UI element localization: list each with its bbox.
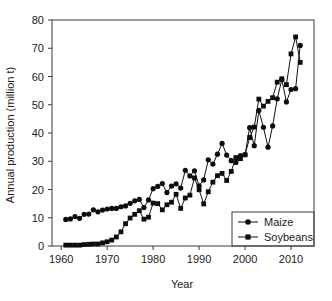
data-point-marker <box>160 181 165 186</box>
legend-label: Soybeans <box>264 231 313 243</box>
x-tick-label: 1960 <box>49 253 73 265</box>
data-point-marker <box>160 207 165 212</box>
data-point-marker <box>137 197 142 202</box>
data-point-marker <box>63 217 68 222</box>
data-point-marker <box>151 201 156 206</box>
data-point-marker <box>238 156 243 161</box>
data-point-marker <box>132 198 137 203</box>
data-point-marker <box>91 242 96 247</box>
legend-label: Maize <box>264 216 293 228</box>
data-point-marker <box>229 158 234 163</box>
legend-item-maize[interactable]: Maize <box>238 216 293 228</box>
data-point-marker <box>174 192 179 197</box>
data-point-marker <box>77 243 82 248</box>
x-axis-title: Year <box>171 278 194 290</box>
data-point-marker <box>96 242 101 247</box>
data-point-marker <box>146 215 151 220</box>
data-point-marker <box>219 141 224 146</box>
data-point-marker <box>73 243 78 248</box>
data-point-marker <box>187 193 192 198</box>
y-tick-label: 40 <box>32 127 44 139</box>
data-point-marker <box>270 123 275 128</box>
data-point-marker <box>68 243 73 248</box>
series-maize <box>63 43 303 222</box>
data-point-marker <box>215 152 220 157</box>
data-point-marker <box>146 197 151 202</box>
series-line-soybeans <box>66 37 300 245</box>
data-point-marker <box>275 96 280 101</box>
legend-item-soybeans[interactable]: Soybeans <box>238 231 313 243</box>
data-point-marker <box>165 202 170 207</box>
data-point-marker <box>206 157 211 162</box>
data-point-marker <box>183 168 188 173</box>
data-point-marker <box>183 196 188 201</box>
data-point-marker <box>210 180 215 185</box>
data-point-marker <box>86 242 91 247</box>
data-point-marker <box>229 169 234 174</box>
data-point-marker <box>100 240 105 245</box>
data-point-marker <box>114 206 119 211</box>
data-point-marker <box>123 203 128 208</box>
data-point-marker <box>243 152 248 157</box>
series-line-maize <box>66 45 300 219</box>
data-point-marker <box>118 204 123 209</box>
data-point-marker <box>114 235 119 240</box>
data-point-marker <box>233 155 238 160</box>
data-point-marker <box>192 176 197 181</box>
data-point-marker <box>109 206 114 211</box>
y-tick-label: 10 <box>32 212 44 224</box>
data-point-marker <box>86 211 91 216</box>
data-point-marker <box>224 152 229 157</box>
y-tick-label: 70 <box>32 42 44 54</box>
y-tick-label: 20 <box>32 184 44 196</box>
data-point-marker <box>284 99 289 104</box>
data-point-marker <box>197 187 202 192</box>
data-point-marker <box>266 99 271 104</box>
data-point-marker <box>261 125 266 130</box>
data-point-marker <box>187 173 192 178</box>
data-point-marker <box>289 52 294 57</box>
data-point-marker <box>224 178 229 183</box>
data-point-marker <box>128 216 133 221</box>
y-axis-ticks: 01020304050607080 <box>32 14 52 252</box>
data-point-marker <box>178 185 183 190</box>
data-point-marker <box>174 181 179 186</box>
data-point-marker <box>63 243 68 248</box>
data-point-marker <box>210 161 215 166</box>
x-tick-label: 2000 <box>233 253 257 265</box>
chart-figure: Annual production (million t) Year 01020… <box>0 0 332 301</box>
x-tick-label: 2010 <box>279 253 303 265</box>
legend-marker-square-icon <box>245 234 250 239</box>
y-tick-label: 30 <box>32 155 44 167</box>
data-point-marker <box>169 184 174 189</box>
data-point-marker <box>82 212 87 217</box>
data-point-marker <box>109 238 114 243</box>
data-point-marker <box>142 217 147 222</box>
data-point-marker <box>275 80 280 85</box>
data-point-marker <box>265 145 270 150</box>
data-point-marker <box>164 190 169 195</box>
legend-marker-circle-icon <box>245 219 251 225</box>
data-point-marker <box>137 208 142 213</box>
data-point-marker <box>169 200 174 205</box>
data-point-marker <box>132 212 137 217</box>
y-tick-label: 50 <box>32 99 44 111</box>
data-point-marker <box>105 239 110 244</box>
y-axis-title: Annual production (million t) <box>4 67 16 203</box>
data-point-marker <box>201 202 206 207</box>
data-point-marker <box>192 168 197 173</box>
data-point-marker <box>105 206 110 211</box>
data-point-marker <box>68 216 73 221</box>
data-point-marker <box>293 86 298 91</box>
data-point-marker <box>201 177 206 182</box>
data-point-marker <box>155 201 160 206</box>
y-tick-label: 0 <box>38 240 44 252</box>
data-point-marker <box>178 206 183 211</box>
data-point-marker <box>284 82 289 87</box>
data-point-marker <box>270 95 275 100</box>
data-point-marker <box>252 125 257 130</box>
data-point-marker <box>206 189 211 194</box>
data-point-marker <box>293 35 298 40</box>
production-line-chart: Annual production (million t) Year 01020… <box>0 0 332 301</box>
data-point-marker <box>220 171 225 176</box>
